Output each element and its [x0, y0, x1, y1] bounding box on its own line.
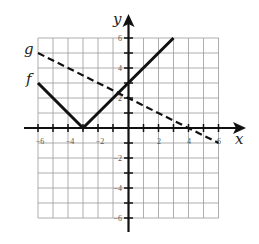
series-g-label: g	[24, 40, 34, 58]
y-axis	[123, 14, 135, 232]
x-tick-label: 4	[187, 137, 191, 146]
y-tick-label: 6	[118, 34, 122, 43]
coordinate-plot: −6 −4 −2 2 4 6 6 4 2 −2 −4 −6 y x g f	[0, 0, 259, 244]
x-tick-label: 2	[157, 137, 161, 146]
x-axis	[24, 122, 246, 134]
y-tick-label: −6	[113, 214, 122, 223]
y-tick-label: −2	[113, 154, 122, 163]
x-tick-label: −6	[36, 137, 45, 146]
series-f-label: f	[25, 70, 34, 88]
y-tick-label: 4	[118, 64, 122, 73]
x-tick-label: −4	[66, 137, 75, 146]
y-tick-label: −4	[113, 184, 122, 193]
y-axis-label: y	[112, 10, 122, 28]
x-axis-label: x	[235, 130, 244, 148]
x-tick-label: −2	[96, 137, 105, 146]
